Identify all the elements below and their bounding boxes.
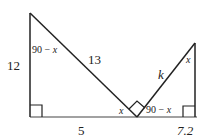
label-7-2: 7.2 — [177, 123, 194, 138]
right-right-angle-marker — [183, 106, 195, 117]
left-top-angle: 90 − x — [32, 44, 58, 55]
label-k: k — [158, 67, 164, 82]
apex-right-angle-marker — [129, 101, 145, 109]
right-bottom-angle: 90 − x — [146, 104, 172, 115]
label-5: 5 — [78, 123, 85, 138]
label-12: 12 — [7, 58, 20, 73]
label-13: 13 — [88, 52, 101, 67]
left-hypotenuse — [30, 13, 137, 117]
geometry-diagram: 12 13 5 90 − x x k 7.2 x 90 − x — [0, 0, 204, 140]
left-right-angle-marker — [30, 105, 42, 117]
left-bottom-angle-x: x — [118, 105, 124, 116]
right-top-angle-x: x — [185, 54, 191, 65]
